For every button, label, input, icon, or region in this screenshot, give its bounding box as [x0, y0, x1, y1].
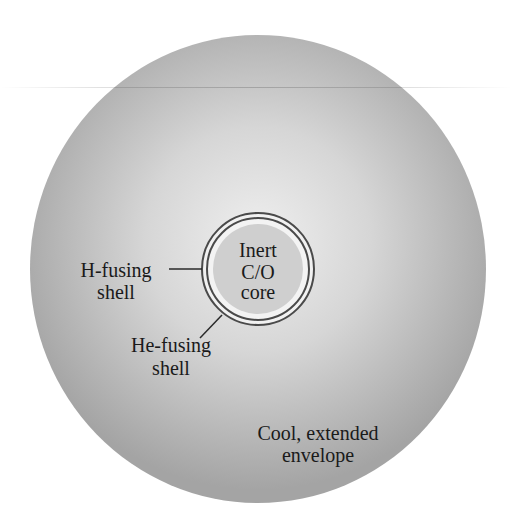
core-label-line3: core — [241, 281, 276, 303]
he-shell-label-line2: shell — [152, 357, 190, 379]
he-shell-label-line1: He-fusing — [131, 334, 211, 357]
envelope-label-line1: Cool, extended — [257, 422, 378, 444]
envelope-label-line2: envelope — [282, 444, 354, 467]
scan-artifact-line — [0, 87, 512, 88]
core-label-line1: Inert — [239, 239, 277, 261]
h-shell-label-line2: shell — [97, 281, 135, 303]
h-shell-label-line1: H-fusing — [80, 259, 151, 282]
star-structure-diagram: Inert C/O core H-fusing shell He-fusing … — [0, 0, 512, 528]
core-label-line2: C/O — [241, 261, 274, 283]
